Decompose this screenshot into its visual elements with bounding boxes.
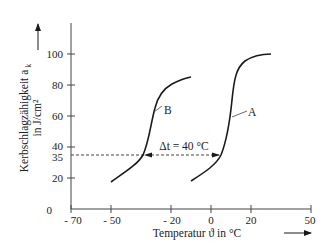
delta-t-label: Δt = 40 °C xyxy=(159,140,209,152)
x-tick-label: 20 xyxy=(246,214,258,226)
y-tick-label: 80 xyxy=(52,79,64,91)
y-axis-title-subscript: k xyxy=(24,64,33,68)
y-tick-label: 35 xyxy=(52,151,64,163)
y-tick-labels: 100 80 60 40 35 20 0 xyxy=(47,48,64,216)
chart-canvas: 100 80 60 40 35 20 0 - 70 - 50 - 20 0 20… xyxy=(0,0,329,248)
curve-b-label: B xyxy=(164,104,172,116)
arrow-left-icon xyxy=(144,153,152,158)
y-tick-label: 0 xyxy=(47,204,53,216)
y-axis-title-line1: Kerbschlagzähigkeit a xyxy=(18,70,31,173)
curve-a-leader xyxy=(232,111,247,117)
curve-a-label: A xyxy=(248,106,257,118)
y-tick-label: 60 xyxy=(52,110,64,122)
x-axis-title: Temperatur ϑ in °C xyxy=(153,227,242,240)
x-tick-label: - 20 xyxy=(163,214,181,226)
arrow-right-icon xyxy=(212,153,220,158)
y-tick-label: 20 xyxy=(52,172,64,184)
x-tick-label: 50 xyxy=(305,214,317,226)
y-tick-label: 100 xyxy=(47,48,64,60)
y-axis-title: Kerbschlagzähigkeit ak in J/cm² xyxy=(18,64,43,173)
x-tick-label: 0 xyxy=(208,214,214,226)
curve-b xyxy=(111,77,191,182)
x-tick-labels: - 70 - 50 - 20 0 20 50 xyxy=(64,214,316,226)
curve-a xyxy=(191,54,271,181)
x-tick-label: - 70 xyxy=(64,214,82,226)
y-axis-title-line2: in J/cm² xyxy=(31,99,43,137)
x-tick-label: - 50 xyxy=(103,214,121,226)
